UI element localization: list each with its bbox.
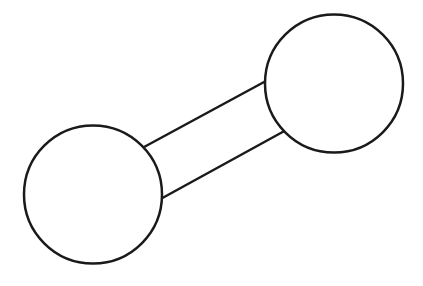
- right-circle-node: [265, 15, 403, 153]
- left-circle-node: [24, 126, 162, 264]
- dumbbell-diagram: [0, 0, 423, 286]
- lower-connector-line: [162, 132, 284, 199]
- diagram-canvas: [0, 0, 423, 286]
- upper-connector-line: [145, 82, 265, 147]
